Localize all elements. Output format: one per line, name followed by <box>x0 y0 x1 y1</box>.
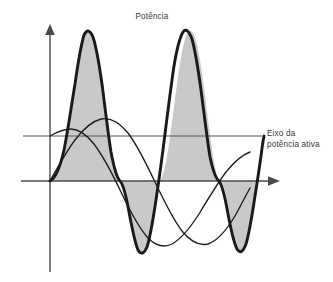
power-waveform-figure: Potência Eixo da potência ativa <box>0 0 333 282</box>
figure-canvas: Potência Eixo da potência ativa <box>0 0 333 282</box>
active-power-axis-label-line1: Eixo da <box>267 129 296 138</box>
plot-title: Potência <box>135 12 168 21</box>
active-power-axis-label-line2: potência ativa <box>267 140 320 149</box>
